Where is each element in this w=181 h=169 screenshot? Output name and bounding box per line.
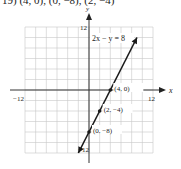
point-label: (4, 0) xyxy=(114,85,130,93)
x-axis-label: x xyxy=(168,86,173,95)
coordinate-graph: x y −12 12 12 −12 2x − y = 8 (4, 0)(2, −… xyxy=(0,0,181,169)
y-max-tick-label: 12 xyxy=(80,24,88,32)
point-label: (2, −4) xyxy=(104,106,124,114)
point-label: (0, −8) xyxy=(93,127,113,135)
data-point xyxy=(109,88,113,92)
y-axis-arrow-icon xyxy=(86,13,92,20)
data-point xyxy=(98,109,102,113)
equation-label: 2x − y = 8 xyxy=(92,34,125,43)
x-axis-arrow-icon xyxy=(159,87,166,93)
equation-line xyxy=(78,38,137,154)
data-point xyxy=(87,130,91,134)
data-points: (4, 0)(2, −4)(0, −8) xyxy=(87,83,143,135)
plot-line-group xyxy=(78,38,137,154)
x-min-tick-label: −12 xyxy=(13,95,24,103)
x-max-tick-label: 12 xyxy=(148,95,156,103)
y-axis-label: y xyxy=(85,5,90,13)
